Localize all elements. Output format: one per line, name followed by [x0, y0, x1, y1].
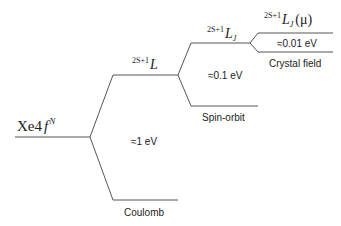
- multiplet-level-label: 2S+1LJ: [207, 25, 237, 43]
- coulomb-label: Coulomb: [124, 207, 164, 218]
- crystal-field-energy: ≈0.01 eV: [277, 38, 317, 49]
- energy-level-diagram: Xe4fN 2S+1L 2S+1LJ 2S+1LJ(μ) ≈1 eV ≈0.1 …: [0, 0, 341, 226]
- coulomb-energy: ≈1 eV: [131, 136, 157, 147]
- ground-level-label: Xe4fN: [17, 116, 56, 134]
- spin-orbit-label: Spin-orbit: [202, 112, 245, 123]
- spin-orbit-energy: ≈0.1 eV: [208, 70, 243, 81]
- stark-level-label: 2S+1LJ(μ): [264, 11, 312, 29]
- term-level-line: [90, 75, 178, 137]
- term-level-label: 2S+1L: [132, 56, 158, 72]
- crystal-field-label: Crystal field: [269, 58, 321, 69]
